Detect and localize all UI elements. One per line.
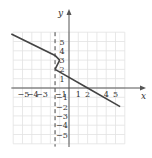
- y-tick-label: 4: [59, 47, 64, 56]
- plot-area: xy−5−4−3−1124554321−1−2−3−4−5: [0, 0, 152, 158]
- y-tick-label: −4: [56, 121, 68, 130]
- y-tick-label: −5: [56, 131, 68, 140]
- x-tick-label: 2: [85, 90, 90, 99]
- x-tick-label: 5: [113, 90, 118, 99]
- graph: xy−5−4−3−1124554321−1−2−3−4−5: [0, 0, 152, 158]
- y-tick-label: −1: [56, 93, 68, 102]
- y-tick-label: 1: [59, 75, 64, 84]
- x-axis-label: x: [141, 91, 146, 101]
- y-tick-label: 5: [59, 38, 64, 47]
- y-tick-label: −2: [56, 103, 68, 112]
- x-tick-label: 1: [76, 90, 81, 99]
- y-tick-label: −3: [56, 112, 68, 121]
- x-axis-arrow-icon: [140, 86, 146, 91]
- y-axis-arrow-icon: [67, 9, 72, 15]
- graph-line: [11, 34, 59, 60]
- y-axis-label: y: [57, 8, 64, 18]
- x-tick-label: −3: [36, 90, 48, 99]
